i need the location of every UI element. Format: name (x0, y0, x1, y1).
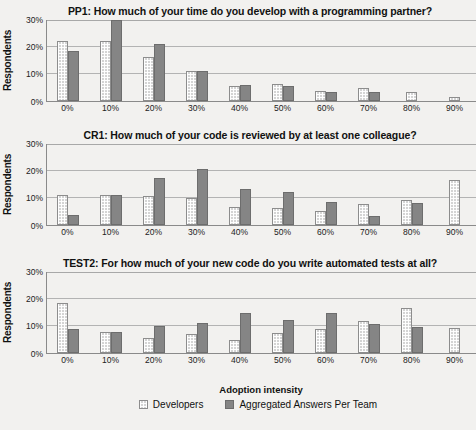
bar-developers (272, 84, 283, 101)
x-tick-label: 40% (218, 355, 261, 365)
bar-aggregated (326, 202, 337, 224)
x-tick-label: 30% (175, 103, 218, 113)
y-tick-0: 0% (31, 221, 43, 231)
chart-title: CR1: How much of your code is reviewed b… (0, 130, 476, 142)
x-tick-label: 80% (390, 355, 433, 365)
y-axis-title-text: Respondents (3, 30, 14, 91)
bar-group (262, 272, 305, 353)
x-tick-label: 70% (347, 103, 390, 113)
bar-developers (401, 308, 412, 353)
bar-developers (449, 97, 460, 100)
legend-label-aggregated: Aggregated Answers Per Team (239, 399, 377, 410)
bar-group (433, 20, 476, 101)
bar-developers (57, 303, 68, 352)
legend-swatch-developers-icon (139, 400, 148, 409)
bar-developers (186, 334, 197, 353)
bar-aggregated (240, 189, 251, 225)
bar-group (390, 272, 433, 353)
bar-developers (57, 41, 68, 100)
bar-aggregated (326, 313, 337, 352)
bar-group (90, 20, 133, 101)
x-tick-label: 20% (132, 103, 175, 113)
bar-groups (47, 144, 476, 225)
bar-group (219, 20, 262, 101)
bar-aggregated (68, 215, 79, 225)
x-tick-label: 10% (89, 227, 132, 237)
bar-aggregated (369, 324, 380, 353)
y-axis-ticks: 0% 10% 20% 30% (16, 272, 46, 354)
bar-aggregated (154, 326, 165, 352)
x-tick-label: 60% (304, 103, 347, 113)
bar-developers (186, 198, 197, 225)
x-tick-label: 0% (46, 103, 89, 113)
bar-aggregated (283, 86, 294, 101)
y-tick-20: 20% (26, 166, 43, 176)
bar-developers (315, 211, 326, 225)
y-tick-10: 10% (26, 69, 43, 79)
plot-area (46, 20, 476, 102)
bar-group (133, 272, 176, 353)
x-tick-label: 0% (46, 355, 89, 365)
chart-title: PP1: How much of your time do you develo… (0, 6, 476, 18)
chart-panel-test2: TEST2: For how much of your new code do … (0, 250, 476, 383)
bar-group (47, 144, 90, 225)
bar-group (390, 20, 433, 101)
plot-area (46, 272, 476, 354)
y-tick-0: 0% (31, 349, 43, 359)
bar-developers (358, 321, 369, 353)
bar-group (133, 20, 176, 101)
bar-developers (449, 180, 460, 225)
bar-aggregated (283, 192, 294, 224)
y-axis-title: Respondents (0, 20, 16, 102)
bar-group (176, 272, 219, 353)
x-tick-label: 90% (433, 103, 476, 113)
y-axis-title: Respondents (0, 144, 16, 226)
x-tick-label: 80% (390, 103, 433, 113)
bar-developers (100, 41, 111, 101)
x-tick-label: 0% (46, 227, 89, 237)
y-tick-10: 10% (26, 321, 43, 331)
bar-groups (47, 272, 476, 353)
y-axis-title: Respondents (0, 272, 16, 354)
bar-aggregated (68, 329, 79, 352)
x-tick-label: 90% (433, 227, 476, 237)
x-tick-label: 70% (347, 227, 390, 237)
bar-aggregated (154, 44, 165, 101)
bar-group (47, 20, 90, 101)
bar-aggregated (111, 195, 122, 225)
legend-item-aggregated: Aggregated Answers Per Team (225, 399, 377, 410)
bar-developers (358, 204, 369, 225)
bar-developers (57, 195, 68, 225)
bar-aggregated (369, 92, 380, 100)
bar-group (347, 20, 390, 101)
bar-aggregated (240, 313, 251, 352)
bar-developers (272, 333, 283, 352)
bar-group (90, 272, 133, 353)
y-tick-10: 10% (26, 193, 43, 203)
x-tick-label: 60% (304, 227, 347, 237)
x-tick-label: 20% (132, 227, 175, 237)
bar-aggregated (111, 332, 122, 352)
y-tick-30: 30% (26, 139, 43, 149)
bar-group (219, 272, 262, 353)
bar-developers (143, 57, 154, 100)
bar-groups (47, 20, 476, 101)
bar-aggregated (283, 320, 294, 352)
x-tick-label: 90% (433, 355, 476, 365)
y-tick-30: 30% (26, 15, 43, 25)
bar-developers (358, 88, 369, 100)
legend: Developers Aggregated Answers Per Team (0, 399, 476, 410)
x-tick-label: 10% (89, 355, 132, 365)
x-tick-label: 70% (347, 355, 390, 365)
bar-developers (401, 200, 412, 225)
x-tick-label: 50% (261, 227, 304, 237)
y-tick-20: 20% (26, 294, 43, 304)
bar-group (133, 144, 176, 225)
x-axis-title: Adoption intensity (0, 384, 476, 395)
y-tick-0: 0% (31, 97, 43, 107)
bar-developers (100, 195, 111, 225)
bar-aggregated (412, 327, 423, 352)
bar-aggregated (111, 20, 122, 101)
x-axis-labels: 0%10%20%30%40%50%60%70%80%90% (0, 355, 476, 365)
bar-group (47, 272, 90, 353)
